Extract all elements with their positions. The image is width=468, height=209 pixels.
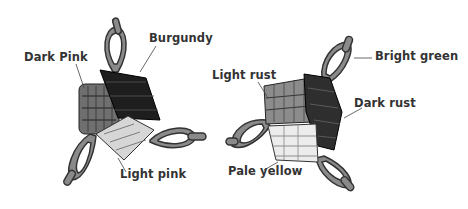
label-light-rust: Light rust bbox=[212, 68, 276, 82]
label-pale-yellow: Pale yellow bbox=[228, 164, 302, 178]
bottom-right-loop bbox=[316, 156, 355, 192]
label-light-pink: Light pink bbox=[120, 167, 186, 181]
bottom-left-loop bbox=[63, 134, 96, 186]
label-dark-rust: Dark rust bbox=[354, 96, 416, 110]
label-dark-pink: Dark Pink bbox=[24, 50, 88, 64]
pale-yellow-block bbox=[268, 124, 318, 162]
label-bright-green: Bright green bbox=[375, 49, 458, 63]
top-loop bbox=[105, 17, 126, 72]
left-loop bbox=[226, 120, 270, 148]
right-loop bbox=[150, 128, 206, 148]
label-burgundy: Burgundy bbox=[149, 31, 213, 45]
top-right-loop bbox=[322, 35, 354, 82]
